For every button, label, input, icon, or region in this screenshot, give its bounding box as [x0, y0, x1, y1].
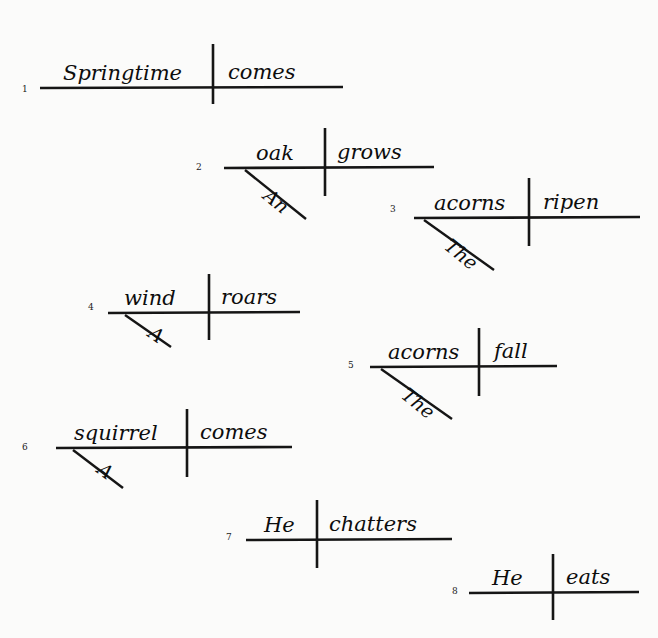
subject-word: acorns: [434, 191, 505, 215]
modifier-word: An: [258, 183, 294, 218]
verb-word: chatters: [329, 512, 417, 536]
diagram-canvas: 1Springtimecomes2oakgrowsAn3acornsripenT…: [0, 0, 658, 638]
verb-word: eats: [566, 565, 610, 589]
sentence-diagram: 8Heeats: [452, 554, 639, 620]
sentence-diagram: 1Springtimecomes: [22, 44, 343, 104]
baseline: [246, 539, 452, 540]
sentence-diagram: 5acornsfallThe: [348, 328, 557, 423]
baseline: [108, 312, 300, 313]
subject-word: Springtime: [63, 61, 182, 85]
item-number: 6: [22, 442, 28, 452]
item-number: 3: [390, 204, 396, 214]
item-number: 4: [88, 302, 94, 312]
item-number: 5: [348, 360, 354, 370]
sentence-diagram: 2oakgrowsAn: [196, 128, 434, 219]
modifier-word: The: [397, 383, 439, 423]
verb-word: fall: [492, 339, 528, 363]
modifier-word: A: [92, 456, 118, 483]
baseline: [56, 447, 292, 448]
subject-word: He: [263, 513, 295, 537]
verb-word: roars: [221, 285, 277, 309]
subject-word: wind: [124, 286, 176, 310]
sentence-diagram: 4windroarsA: [88, 274, 300, 347]
sentence-diagram: 3acornsripenThe: [390, 178, 640, 274]
subject-word: oak: [256, 141, 294, 165]
sentence-diagram-worksheet: 1Springtimecomes2oakgrowsAn3acornsripenT…: [0, 0, 658, 638]
verb-word: grows: [337, 140, 402, 164]
modifier-word: The: [440, 234, 482, 274]
verb-word: comes: [200, 420, 268, 444]
subject-word: He: [491, 566, 523, 590]
item-number: 7: [226, 532, 232, 542]
sentence-diagram: 6squirrelcomesA: [22, 409, 292, 488]
baseline: [224, 167, 434, 168]
baseline: [370, 366, 557, 367]
subject-word: acorns: [388, 340, 459, 364]
verb-word: comes: [228, 60, 296, 84]
baseline: [40, 87, 343, 88]
item-number: 2: [196, 162, 202, 172]
baseline: [414, 217, 640, 218]
subject-word: squirrel: [74, 421, 158, 445]
item-number: 1: [22, 84, 28, 94]
sentence-diagram: 7Hechatters: [226, 500, 452, 568]
item-number: 8: [452, 586, 458, 596]
verb-word: ripen: [543, 190, 599, 214]
